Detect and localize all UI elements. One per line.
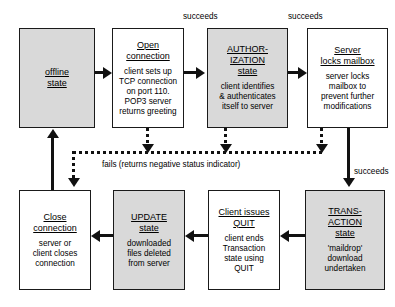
open-connection-title: Open connection <box>126 40 170 62</box>
offline-state[interactable]: offline state <box>19 28 95 128</box>
authorization-state[interactable]: AUTHOR- IZATION state client identifies … <box>207 28 288 128</box>
transaction-state[interactable]: TRANS- ACTION state 'maildrop' download … <box>305 190 385 290</box>
update-state-body: downloaded files deleted from server <box>127 239 171 269</box>
arrow-server-to-transaction-line <box>347 128 350 181</box>
pop3-state-diagram: offline state Open connection client set… <box>0 0 395 307</box>
close-connection-state[interactable]: Close connection server or client closes… <box>19 190 91 290</box>
close-connection-body: server or client closes connection <box>33 239 78 269</box>
succeeds-label-open-to-auth: succeeds <box>183 12 218 21</box>
arrow-server-to-transaction-head <box>343 178 355 187</box>
arrow-update-to-close-line <box>99 234 113 237</box>
succeeds-label-auth-to-server: succeeds <box>288 12 323 21</box>
arrow-auth-to-server-head <box>298 67 307 79</box>
arrow-transaction-to-quit-line <box>288 234 305 237</box>
authorization-body: client identifies & authenticates itself… <box>219 82 275 112</box>
server-locks-body: server locks mailbox to prevent further … <box>321 72 374 112</box>
arrow-update-to-close-head <box>91 230 100 242</box>
arrow-offline-to-open-head <box>103 67 112 79</box>
arrow-quit-to-update-line <box>193 234 208 237</box>
client-issues-quit-body: client ends Transaction state using QUIT <box>223 234 265 274</box>
dotted-open-to-fail-line <box>146 128 149 145</box>
dotted-fail-to-close-line <box>72 151 75 179</box>
open-connection-body: client sets up TCP connection on port 11… <box>119 67 177 117</box>
dotted-server-to-fail-line <box>320 128 323 145</box>
open-connection-state[interactable]: Open connection client sets up TCP conne… <box>112 28 184 128</box>
server-locks-mailbox-state[interactable]: Server locks mailbox server locks mailbo… <box>307 28 388 128</box>
update-state-title: UPDATE state <box>131 212 167 234</box>
succeeds-label-server-to-transaction: succeeds <box>354 167 389 176</box>
fails-label: fails (returns negative status indicator… <box>102 160 240 169</box>
server-locks-title: Server locks mailbox <box>320 45 374 67</box>
transaction-state-title: TRANS- ACTION state <box>328 206 362 239</box>
authorization-title: AUTHOR- IZATION state <box>227 44 268 77</box>
close-connection-title: Close connection <box>33 212 77 234</box>
arrow-open-to-auth-head <box>196 67 205 79</box>
update-state[interactable]: UPDATE state downloaded files deleted fr… <box>113 190 185 290</box>
dotted-fail-to-close-head <box>68 178 80 187</box>
offline-state-title: offline state <box>45 67 69 89</box>
dotted-fail-bus-line <box>73 151 324 154</box>
arrow-quit-to-update-head <box>185 230 194 242</box>
arrow-close-to-offline-line <box>51 137 54 190</box>
dotted-auth-to-fail-line <box>224 128 227 145</box>
transaction-state-body: 'maildrop' download undertaken <box>325 244 366 274</box>
client-issues-quit-title: Client issues QUIT <box>218 207 269 229</box>
arrow-close-to-offline-head <box>47 129 59 138</box>
client-issues-quit-state[interactable]: Client issues QUIT client ends Transacti… <box>208 190 280 290</box>
arrow-transaction-to-quit-head <box>280 230 289 242</box>
